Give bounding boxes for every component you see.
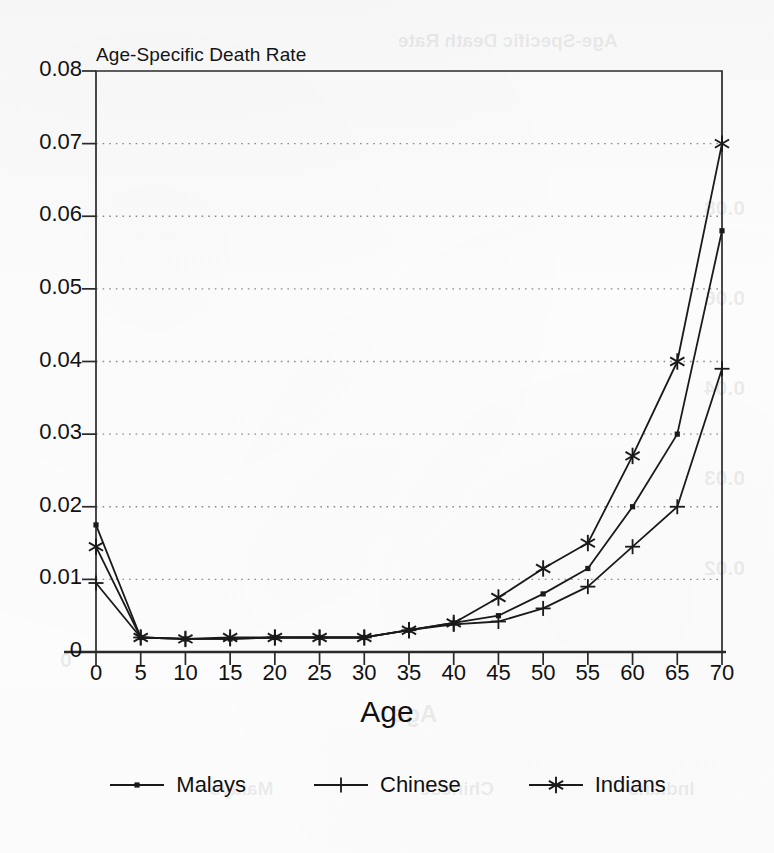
tickmarks-group (82, 71, 722, 665)
data-point-malays-60 (630, 504, 635, 509)
data-point-malays-70 (719, 228, 724, 233)
x-tick-label: 25 (307, 660, 331, 686)
legend-marker-dot-icon (108, 774, 166, 796)
data-point-malays-0 (93, 522, 98, 527)
x-axis-label: Age (0, 695, 774, 729)
legend-marker-plus-icon (312, 774, 370, 796)
series-line-chinese (96, 369, 722, 639)
data-point-indians-0 (89, 538, 103, 554)
data-point-indians-60 (625, 448, 639, 464)
data-point-chinese-70 (715, 361, 730, 376)
y-tick-label: 0.01 (0, 564, 82, 590)
x-tick-label: 10 (173, 660, 197, 686)
x-tick-label: 50 (531, 660, 555, 686)
series-markers-group (89, 135, 730, 647)
legend-label: Chinese (380, 772, 461, 798)
data-point-chinese-50 (536, 601, 551, 616)
chart-figure: Age-Specific Death Rate 00.010.020.030.0… (0, 0, 774, 853)
y-tick-label: 0.06 (0, 201, 82, 227)
y-tick-label: 0 (0, 637, 82, 663)
x-tick-label: 15 (218, 660, 242, 686)
legend-label: Indians (595, 772, 666, 798)
x-tick-label: 30 (352, 660, 376, 686)
data-point-indians-50 (536, 560, 550, 576)
data-point-indians-65 (670, 353, 684, 369)
y-tick-label: 0.05 (0, 274, 82, 300)
data-point-malays-50 (541, 591, 546, 596)
x-tick-label: 35 (397, 660, 421, 686)
legend-item-chinese: Chinese (312, 772, 461, 798)
x-tick-label: 70 (710, 660, 734, 686)
chart-legend: MalaysChineseIndians (0, 772, 774, 798)
legend-label: Malays (176, 772, 246, 798)
legend-glyph-dot-icon (135, 782, 140, 787)
legend-glyph-plus-icon (334, 778, 349, 793)
legend-item-indians: Indians (527, 772, 666, 798)
data-point-indians-55 (581, 535, 595, 551)
x-tick-label: 60 (620, 660, 644, 686)
legend-marker-asterisk-icon (527, 774, 585, 796)
data-point-indians-45 (491, 589, 505, 605)
y-tick-label: 0.02 (0, 492, 82, 518)
series-line-indians (96, 144, 722, 639)
x-tick-label: 0 (90, 660, 102, 686)
data-point-malays-65 (675, 432, 680, 437)
series-line-malays (96, 231, 722, 639)
y-tick-label: 0.04 (0, 347, 82, 373)
data-point-malays-55 (585, 566, 590, 571)
y-tick-label: 0.03 (0, 419, 82, 445)
x-tick-label: 55 (576, 660, 600, 686)
series-lines-group (96, 144, 722, 639)
y-tick-label: 0.08 (0, 56, 82, 82)
y-tick-label: 0.07 (0, 129, 82, 155)
x-tick-label: 5 (135, 660, 147, 686)
x-tick-label: 45 (486, 660, 510, 686)
legend-item-malays: Malays (108, 772, 246, 798)
x-tick-label: 65 (665, 660, 689, 686)
x-tick-label: 20 (263, 660, 287, 686)
x-tick-label: 40 (441, 660, 465, 686)
